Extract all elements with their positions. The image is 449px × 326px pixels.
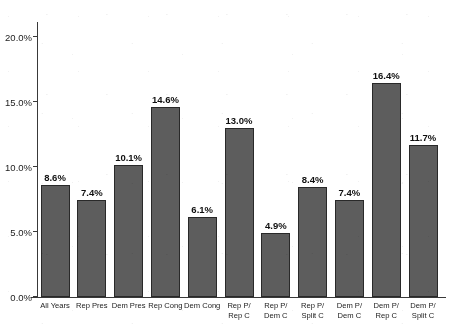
- x-axis-category-label: Dem P/ Split C: [400, 301, 446, 320]
- bar-value-label: 7.4%: [327, 187, 372, 198]
- bar-value-label: 11.7%: [401, 132, 446, 143]
- bar-value-label: 14.6%: [143, 94, 188, 105]
- bar-chart: ...UNEMPLOYMENT RATE AVERAGE SINCE 1949-…: [0, 0, 449, 326]
- bar: [298, 187, 327, 296]
- bar-value-label: 7.4%: [69, 187, 114, 198]
- bar: [372, 83, 401, 296]
- bar: [188, 217, 217, 296]
- bar: [151, 107, 180, 297]
- bar: [77, 200, 106, 296]
- bar: [41, 185, 70, 297]
- plot-area: 8.6%All Years7.4%Rep Pres10.1%Dem Pres14…: [0, 0, 449, 326]
- bar: [114, 165, 143, 296]
- bar-value-label: 10.1%: [106, 152, 151, 163]
- bar: [409, 145, 438, 297]
- bar-value-label: 13.0%: [217, 115, 262, 126]
- bar-value-label: 8.6%: [33, 172, 78, 183]
- bar: [225, 128, 254, 297]
- bar-value-label: 6.1%: [180, 204, 225, 215]
- bar-value-label: 8.4%: [290, 174, 335, 185]
- bar-value-label: 4.9%: [253, 220, 298, 231]
- bar: [261, 233, 290, 297]
- bar: [335, 200, 364, 296]
- bar-value-label: 16.4%: [364, 70, 409, 81]
